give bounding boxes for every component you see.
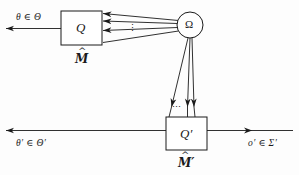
upper-bundle-ellipsis: ⋮: [128, 24, 137, 33]
q-prime-machine-label: ^ M′: [178, 157, 194, 169]
top-left-input-label: θ ∈ Θ: [16, 13, 41, 23]
lower-bundle-ellipsis: ⋯: [172, 103, 181, 112]
q-box-label: Q: [76, 21, 85, 34]
bottom-right-output-edge: [207, 128, 293, 134]
omega-node-label: Ω: [185, 19, 193, 30]
figure-canvas: θ ∈ Θ Q Ω ^ M ⋮ ⋯ Q′ ^ M′ θ′ ∈ Θ′ o′ ∈ Σ…: [0, 0, 299, 175]
diagram-svg: [0, 0, 299, 175]
bundle-omega-to-q: [103, 14, 179, 43]
bottom-right-output-label: o′ ∈ Σ′: [248, 139, 277, 149]
q-prime-machine-hat: ^: [181, 150, 189, 160]
q-machine-label: ^ M: [75, 53, 88, 65]
bottom-left-input-label: θ′ ∈ Θ′: [16, 139, 46, 149]
q-prime-box-label: Q′: [180, 127, 192, 140]
q-machine-hat: ^: [78, 46, 86, 56]
